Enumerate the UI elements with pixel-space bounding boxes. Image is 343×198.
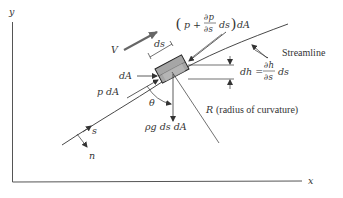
p-dA-arrow [127, 80, 158, 98]
p-dA-label: p dA [97, 86, 119, 97]
svg-text:ds: ds [278, 66, 289, 77]
fluid-element [155, 55, 189, 83]
velocity-label: V [111, 44, 119, 55]
streamline-label: Streamline [282, 47, 326, 58]
axes: y x [8, 6, 314, 186]
svg-text:∂s: ∂s [264, 72, 273, 82]
svg-text:dA: dA [237, 19, 250, 30]
radius-text: (radius of curvature) [216, 104, 298, 116]
radius-label: R [205, 104, 213, 115]
svg-text:∂p: ∂p [204, 12, 214, 22]
x-axis [13, 181, 303, 182]
velocity-arrow [124, 32, 157, 50]
s-label: s [92, 125, 97, 136]
ds-label: ds [154, 38, 165, 49]
ds-dimension: ds [148, 38, 173, 59]
weight-label: ρg ds dA [144, 121, 187, 132]
x-axis-label: x [308, 175, 314, 186]
svg-text:): ) [231, 15, 236, 32]
streamline-diagram: y x Streamline V ds dA p dA ( p + ∂p ∂s … [0, 0, 343, 198]
sn-coordinates: s n [77, 125, 97, 161]
svg-text:(: ( [176, 15, 181, 32]
svg-text:∂s: ∂s [204, 24, 213, 34]
svg-text:ds: ds [219, 19, 230, 30]
theta-label: θ [149, 97, 155, 108]
svg-text:∂h: ∂h [264, 60, 274, 70]
n-label: n [89, 150, 95, 161]
dh-dimension: dh = ∂h ∂s ds [188, 56, 289, 89]
svg-text:dh =: dh = [240, 66, 263, 77]
streamline-leader-line [252, 45, 267, 58]
dA-label: dA [119, 70, 132, 81]
downstream-pressure-arrow-2 [190, 34, 222, 59]
y-axis-label: y [8, 6, 15, 17]
downstream-pressure-label: ( p + ∂p ∂s ds ) dA [176, 12, 250, 34]
svg-text:p +: p + [184, 19, 201, 30]
